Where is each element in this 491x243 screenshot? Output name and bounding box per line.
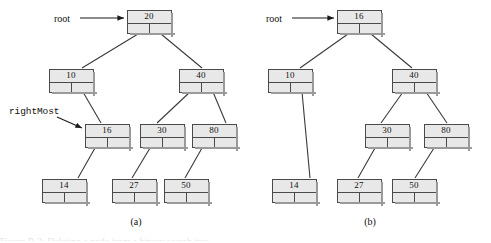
- left-pointer-cell: [393, 193, 415, 202]
- tree-edge: [302, 92, 310, 178]
- tree-node-pointer-row: [180, 83, 223, 92]
- binary-search-tree-figure: 2010401630801427501610403080142750 rootr…: [0, 0, 491, 243]
- node-drop-shadow: [381, 182, 383, 206]
- tree-node: 16: [337, 10, 382, 34]
- node-drop-shadow: [436, 182, 438, 206]
- tree-node-value: 40: [393, 70, 436, 83]
- tree-node-value: 40: [180, 70, 223, 83]
- node-drop-shadow: [208, 182, 210, 206]
- tree-node: 14: [272, 179, 317, 203]
- edges-group: [78, 34, 447, 178]
- right-pointer-cell: [360, 24, 381, 33]
- tree-node: 30: [140, 124, 185, 148]
- tree-node-value: 27: [113, 180, 156, 193]
- right-pointer-cell: [202, 83, 223, 92]
- right-pointer-cell: [187, 193, 208, 202]
- right-pointer-cell: [447, 138, 468, 147]
- right-pointer-cell: [108, 138, 129, 147]
- left-pointer-cell: [141, 138, 163, 147]
- tree-node-pointer-row: [193, 138, 236, 147]
- tree-node-pointer-row: [393, 83, 436, 92]
- left-pointer-cell: [193, 138, 215, 147]
- tree-node-value: 50: [393, 180, 436, 193]
- node-drop-shadow: [316, 182, 318, 206]
- tree-node: 40: [392, 69, 437, 93]
- node-drop-shadow: [381, 13, 383, 37]
- tree-node-value: 30: [366, 125, 409, 138]
- right-pointer-cell: [65, 193, 86, 202]
- node-drop-shadow: [171, 13, 173, 37]
- tree-node-pointer-row: [128, 24, 171, 33]
- right-pointer-cell: [135, 193, 156, 202]
- pointer-label-rightmost: rightMost: [9, 106, 59, 117]
- right-pointer-cell: [388, 138, 409, 147]
- tree-node-value: 80: [193, 125, 236, 138]
- tree-edge: [78, 148, 95, 178]
- tree-node-value: 14: [273, 180, 316, 193]
- tree-node: 10: [268, 69, 313, 93]
- tree-node: 80: [192, 124, 237, 148]
- tree-edge: [83, 92, 101, 123]
- tree-edge: [157, 92, 190, 123]
- left-pointer-cell: [128, 24, 150, 33]
- tree-node-value: 10: [50, 70, 93, 83]
- right-pointer-cell: [291, 83, 312, 92]
- left-pointer-cell: [393, 83, 415, 92]
- tree-node-pointer-row: [113, 193, 156, 202]
- tree-edge: [132, 148, 150, 178]
- tree-node: 80: [424, 124, 469, 148]
- left-pointer-cell: [425, 138, 447, 147]
- right-pointer-cell: [415, 83, 436, 92]
- node-drop-shadow: [223, 72, 225, 96]
- tree-node-pointer-row: [338, 193, 381, 202]
- left-pointer-cell: [86, 138, 108, 147]
- tree-node-pointer-row: [43, 193, 86, 202]
- tree-edge: [82, 34, 138, 68]
- left-pointer-cell: [366, 138, 388, 147]
- tree-node-pointer-row: [425, 138, 468, 147]
- node-drop-shadow: [236, 127, 238, 151]
- right-pointer-cell: [415, 193, 436, 202]
- tree-node: 30: [365, 124, 410, 148]
- tree-node-pointer-row: [366, 138, 409, 147]
- tree-node-pointer-row: [86, 138, 129, 147]
- tree-edge: [381, 92, 403, 123]
- tree-node-value: 16: [338, 11, 381, 24]
- node-drop-shadow: [86, 182, 88, 206]
- right-pointer-cell: [150, 24, 171, 33]
- tree-node-value: 16: [86, 125, 129, 138]
- panel-caption-a: (a): [116, 216, 156, 227]
- pointer-label-root: root: [54, 13, 70, 24]
- left-pointer-cell: [180, 83, 202, 92]
- tree-node-pointer-row: [338, 24, 381, 33]
- tree-node-value: 30: [141, 125, 184, 138]
- left-pointer-cell: [165, 193, 187, 202]
- tree-node-pointer-row: [165, 193, 208, 202]
- node-drop-shadow: [468, 127, 470, 151]
- tree-node-pointer-row: [50, 83, 93, 92]
- tree-node-value: 50: [165, 180, 208, 193]
- tree-edge: [161, 34, 202, 68]
- tree-edges-layer: [0, 0, 491, 243]
- left-pointer-cell: [338, 193, 360, 202]
- tree-node: 10: [49, 69, 94, 93]
- node-drop-shadow: [93, 72, 95, 96]
- tree-edge: [426, 92, 447, 123]
- tree-node-value: 14: [43, 180, 86, 193]
- right-pointer-cell: [215, 138, 236, 147]
- tree-node-value: 20: [128, 11, 171, 24]
- tree-node-value: 10: [269, 70, 312, 83]
- tree-node: 27: [337, 179, 382, 203]
- left-pointer-cell: [269, 83, 291, 92]
- tree-node: 40: [179, 69, 224, 93]
- tree-edge: [213, 92, 226, 123]
- left-pointer-cell: [43, 193, 65, 202]
- right-pointer-cell: [72, 83, 93, 92]
- tree-node: 16: [85, 124, 130, 148]
- node-drop-shadow: [312, 72, 314, 96]
- tree-node: 14: [42, 179, 87, 203]
- tree-edge: [415, 148, 434, 178]
- right-pointer-cell: [360, 193, 381, 202]
- tree-edge: [358, 148, 375, 178]
- figure-footer-caption: Figure B-3: Deleting a node from a binar…: [0, 234, 491, 241]
